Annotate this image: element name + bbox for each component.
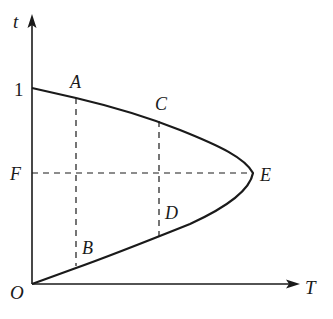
t-axis-label: t (13, 11, 19, 32)
point-label-D: D (164, 203, 178, 223)
point-label-A: A (69, 72, 82, 92)
origin-label: O (10, 282, 24, 303)
diagram: t 1 A C F E D B O T (0, 0, 333, 319)
point-label-C: C (155, 94, 168, 114)
curve (32, 88, 253, 284)
point-label-F: F (9, 164, 22, 184)
T-axis-label: T (305, 277, 317, 298)
tick-label-1: 1 (14, 79, 24, 100)
point-label-E: E (259, 165, 271, 185)
point-label-B: B (82, 238, 93, 258)
